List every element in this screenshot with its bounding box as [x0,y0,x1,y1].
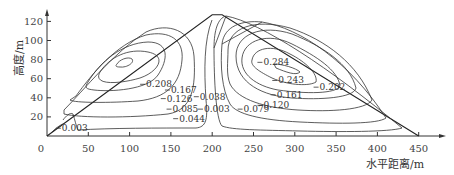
x-tick-label-100: 100 [120,143,139,154]
x-ticks: 50100150200250300350400450 [82,132,428,154]
contour-line-0.208 [116,58,133,67]
contour-label-0.038: 0.038 [200,92,226,102]
contour-line-0.085 [70,34,182,103]
y-tick-label-40: 40 [30,92,43,103]
contour-line-0.167 [99,51,159,83]
contour-label-0.161: 0.161 [277,90,303,100]
contour-label-0.003: 0.003 [204,104,230,114]
x-tick-label-250: 250 [244,143,263,154]
contour-label-0.202: 0.202 [320,82,346,92]
contour-label-0.284: 0.284 [263,57,289,67]
contour-label-0.085: 0.085 [173,104,199,114]
y-tick-label-20: 20 [30,111,43,122]
y-tick-label-80: 80 [30,54,43,65]
contour-label-0.243: 0.243 [278,75,304,85]
domain-outline [47,15,419,136]
x-axis-arrow [439,134,446,138]
y-tick-label-120: 120 [24,16,43,27]
x-tick-label-150: 150 [161,143,180,154]
contour-label-0.208: 0.208 [146,79,172,89]
y-axis-label: 高度/m [12,39,26,76]
contour-chart: 50100150200250300350400450 2040608010012… [0,0,454,175]
x-tick-label-450: 450 [409,143,428,154]
x-axis-label: 水平距离/m [366,157,425,171]
contour-label-0.120: 0.120 [263,100,289,110]
contour-label-0.126: 0.126 [167,94,193,104]
right-cell-contours [214,16,402,132]
y-tick-label-100: 100 [24,35,43,46]
x-tick-label-350: 350 [327,143,346,154]
y-axis-arrow [45,9,49,16]
contour-label-0.003: 0.003 [62,123,88,133]
x-tick-label-200: 200 [203,143,222,154]
contour-label-0.044: 0.044 [179,114,205,124]
x-tick-label-400: 400 [368,143,387,154]
y-tick-label-60: 60 [30,73,43,84]
x-tick-label-50: 50 [82,143,95,154]
origin-label: 0 [38,143,44,154]
x-tick-label-300: 300 [285,143,304,154]
